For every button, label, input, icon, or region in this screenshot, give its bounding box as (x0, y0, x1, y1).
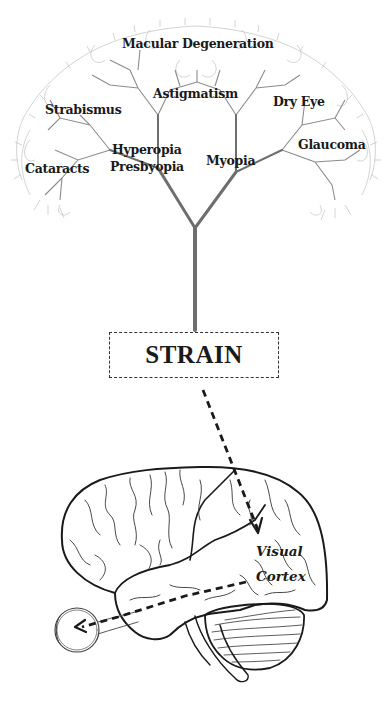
label-dry-eye: Dry Eye (273, 96, 325, 109)
label-cataracts: Cataracts (25, 163, 89, 176)
label-presbyopia: Presbyopia (110, 161, 184, 174)
strain-label: STRAIN (145, 341, 242, 369)
label-astigmatism: Astigmatism (153, 88, 238, 101)
label-macular-degeneration: Macular Degeneration (122, 38, 274, 51)
label-myopia: Myopia (206, 155, 255, 168)
eye-icon (55, 608, 99, 652)
visual-cortex-label-line1: Visual (256, 545, 303, 559)
tree-branches (45, 50, 360, 200)
arrow-left-icon (75, 620, 86, 632)
visual-cortex-label-line2: Cortex (256, 570, 306, 584)
label-hyperopia: Hyperopia (112, 144, 182, 157)
label-glaucoma: Glaucoma (298, 139, 366, 152)
label-strabismus: Strabismus (45, 104, 121, 117)
strain-box: STRAIN (109, 332, 279, 378)
